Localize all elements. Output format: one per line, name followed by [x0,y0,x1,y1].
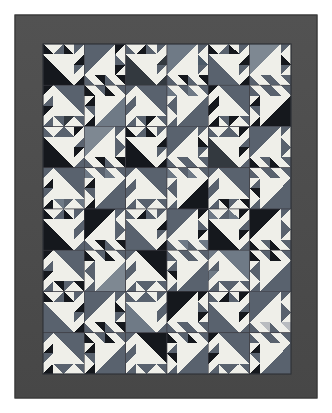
quilt-block [84,44,125,85]
quilt-block [167,44,208,85]
quilt-block [126,209,167,250]
quilt-block [167,333,208,374]
quilt-block [250,291,291,332]
quilt-block [208,168,249,209]
quilt-block [167,168,208,209]
quilt-block [250,44,291,85]
quilt-block [84,168,125,209]
quilt-block [43,333,84,374]
quilt-block [84,333,125,374]
block-layer [43,44,291,374]
quilt-block [208,209,249,250]
quilt-block [126,250,167,291]
quilt-block [208,85,249,126]
quilt-block [43,209,84,250]
quilt-block [250,168,291,209]
quilt-block [43,127,84,168]
quilt-canvas [0,0,332,413]
quilt-block [208,44,249,85]
quilt-block [167,250,208,291]
quilt-block [208,292,249,333]
quilt-block [167,126,208,167]
quilt-block [126,333,167,374]
quilt-block [167,209,208,250]
quilt-block [84,291,125,332]
quilt-block [208,250,249,291]
quilt-block [167,291,208,332]
quilt-block [126,85,167,126]
quilt-block [208,333,249,374]
quilt-block [250,209,291,250]
quilt-block [43,168,84,209]
quilt-block [126,168,167,209]
quilt-block [126,292,167,333]
quilt-diagram [0,0,332,413]
quilt-block [43,292,84,333]
quilt-block [250,250,291,291]
quilt-block [126,127,167,168]
quilt-block [43,44,84,85]
quilt-block [84,209,125,250]
quilt-block [208,127,249,168]
quilt-block [84,126,125,167]
quilt-block [84,85,125,126]
quilt-block [167,85,208,126]
quilt-block [43,250,84,291]
quilt-block [126,44,167,85]
quilt-block [43,85,84,126]
quilt-block [250,333,291,374]
quilt-block [84,250,125,291]
quilt-block [250,126,291,167]
quilt-block [250,85,291,126]
